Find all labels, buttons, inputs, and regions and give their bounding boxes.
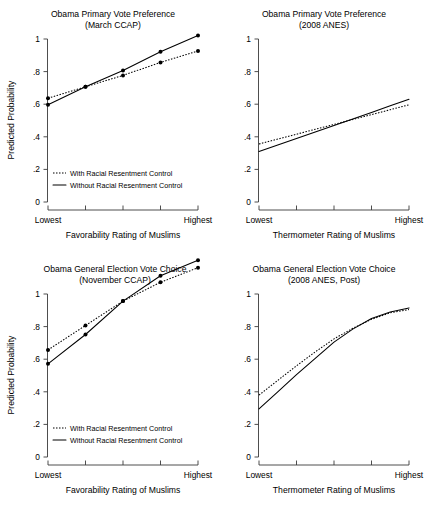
y-axis-title: Predicted Probability — [6, 80, 16, 160]
y-axis: 0 .2 .4 .6 .8 1 — [244, 289, 259, 462]
x-axis-title: Thermometer Rating of Muslims — [272, 230, 394, 240]
y-ticks — [44, 39, 48, 202]
legend-label-without: Without Racial Resentment Control — [70, 436, 183, 445]
data-marker — [196, 258, 200, 262]
x-tick-label-lowest: Lowest — [35, 215, 62, 225]
panel-top-left-svg: Obama Primary Vote Preference (March CCA… — [0, 0, 214, 255]
x-ticks — [259, 460, 409, 465]
data-marker — [159, 273, 163, 277]
x-axis: Lowest Highest Thermometer Rating of Mus… — [245, 460, 423, 495]
data-marker — [159, 60, 163, 64]
data-marker — [46, 347, 50, 351]
x-axis: Lowest Highest Favorability Rating of Mu… — [35, 206, 213, 241]
panel-subtitle: (November CCAP) — [79, 275, 151, 285]
figure-panel-grid: Obama Primary Vote Preference (March CCA… — [0, 0, 427, 509]
y-ticks — [44, 294, 48, 457]
data-marker — [196, 34, 200, 38]
series-with-racial-resentment-control — [259, 309, 409, 395]
series-with-racial-resentment-control — [259, 105, 409, 144]
x-tick-label-highest: Highest — [394, 215, 423, 225]
y-tick-label-3: .6 — [33, 99, 40, 109]
y-tick-label-2: .4 — [33, 386, 40, 396]
y-tick-label-2: .4 — [33, 132, 40, 142]
y-tick-label-3: .6 — [244, 99, 251, 109]
series-with-racial-resentment-control — [46, 49, 200, 100]
series-without-racial-resentment-control — [259, 99, 409, 151]
series-without-racial-resentment-control — [259, 307, 409, 408]
panel-subtitle: (2008 ANES, Post) — [287, 275, 359, 285]
y-tick-label-1: .2 — [244, 164, 251, 174]
legend-label-with: With Racial Resentment Control — [70, 424, 173, 433]
legend: With Racial Resentment Control Without R… — [53, 169, 183, 190]
panel-top-left: Obama Primary Vote Preference (March CCA… — [0, 0, 214, 255]
x-ticks — [48, 206, 198, 211]
y-tick-label-5: 1 — [246, 34, 251, 44]
y-tick-label-0: 0 — [246, 197, 251, 207]
legend-label-without: Without Racial Resentment Control — [70, 181, 183, 190]
x-axis: Lowest Highest Favorability Rating of Mu… — [35, 460, 213, 495]
x-tick-label-highest: Highest — [184, 470, 213, 480]
y-axis-title: Predicted Probability — [6, 334, 16, 414]
y-axis: 0 .2 .4 .6 .8 1 — [33, 289, 48, 462]
y-tick-label-3: .6 — [33, 354, 40, 364]
x-tick-label-lowest: Lowest — [35, 470, 62, 480]
data-marker — [121, 69, 125, 73]
y-ticks — [254, 294, 258, 457]
panel-title: Obama Primary Vote Preference — [51, 9, 175, 19]
y-tick-label-4: .8 — [33, 67, 40, 77]
panel-subtitle: (March CCAP) — [85, 20, 141, 30]
legend-label-with: With Racial Resentment Control — [70, 169, 173, 178]
x-tick-label-lowest: Lowest — [245, 215, 272, 225]
panel-bottom-left-svg: Obama General Election Vote Choice (Nove… — [0, 255, 214, 509]
y-tick-label-4: .8 — [244, 67, 251, 77]
y-tick-label-0: 0 — [35, 197, 40, 207]
data-marker — [46, 103, 50, 107]
panel-top-right-svg: Obama Primary Vote Preference (2008 ANES… — [214, 0, 427, 255]
y-tick-label-2: .4 — [244, 132, 251, 142]
x-axis-title: Favorability Rating of Muslims — [66, 230, 181, 240]
panel-title: Obama General Election Vote Choice — [252, 264, 395, 274]
y-tick-label-0: 0 — [246, 452, 251, 462]
data-marker — [46, 361, 50, 365]
y-ticks — [254, 39, 258, 202]
legend: With Racial Resentment Control Without R… — [53, 424, 183, 445]
y-axis: 0 .2 .4 .6 .8 1 — [33, 34, 48, 207]
x-ticks — [48, 460, 198, 465]
x-tick-label-highest: Highest — [394, 470, 423, 480]
data-marker — [121, 299, 125, 303]
panel-bottom-right-svg: Obama General Election Vote Choice (2008… — [214, 255, 427, 509]
panel-title: Obama General Election Vote Choice — [44, 264, 187, 274]
panel-top-right: Obama Primary Vote Preference (2008 ANES… — [214, 0, 427, 255]
data-marker — [196, 49, 200, 53]
y-tick-label-1: .2 — [244, 419, 251, 429]
panel-title: Obama Primary Vote Preference — [261, 9, 385, 19]
y-tick-label-0: 0 — [35, 452, 40, 462]
y-tick-label-1: .2 — [33, 419, 40, 429]
data-marker — [159, 50, 163, 54]
data-marker — [46, 96, 50, 100]
x-tick-label-lowest: Lowest — [245, 470, 272, 480]
y-axis: 0 .2 .4 .6 .8 1 — [244, 34, 259, 207]
y-tick-label-5: 1 — [246, 289, 251, 299]
data-marker — [84, 332, 88, 336]
data-marker — [159, 280, 163, 284]
y-tick-label-3: .6 — [244, 354, 251, 364]
x-axis: Lowest Highest Thermometer Rating of Mus… — [245, 206, 423, 241]
x-axis-title: Thermometer Rating of Muslims — [272, 485, 394, 495]
data-marker — [196, 265, 200, 269]
panel-subtitle: (2008 ANES) — [298, 20, 348, 30]
data-marker — [84, 85, 88, 89]
x-tick-label-highest: Highest — [184, 215, 213, 225]
y-tick-label-2: .4 — [244, 386, 251, 396]
y-tick-label-4: .8 — [244, 321, 251, 331]
series-without-racial-resentment-control — [46, 34, 200, 107]
x-ticks — [259, 206, 409, 211]
y-tick-label-1: .2 — [33, 164, 40, 174]
x-axis-title: Favorability Rating of Muslims — [66, 485, 181, 495]
panel-bottom-left: Obama General Election Vote Choice (Nove… — [0, 255, 214, 509]
data-marker — [84, 323, 88, 327]
y-tick-label-5: 1 — [35, 34, 40, 44]
panel-bottom-right: Obama General Election Vote Choice (2008… — [214, 255, 427, 509]
y-tick-label-4: .8 — [33, 321, 40, 331]
data-marker — [121, 73, 125, 77]
